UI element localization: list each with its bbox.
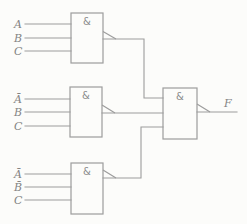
and-symbol-4: &: [176, 91, 184, 102]
and-gate-1: A B C &: [13, 13, 163, 98]
input-label-a2: Ā: [13, 93, 22, 106]
input-label-c1: C: [14, 45, 23, 58]
input-label-c3: C: [14, 194, 23, 207]
input-label-a1: A: [13, 18, 22, 31]
output-wire-1: [103, 39, 163, 98]
negation-slash-2: [102, 105, 115, 113]
and-gate-3: Ā B̄ C &: [13, 127, 163, 214]
and-symbol-1: &: [83, 16, 91, 27]
output-wire-3: [103, 127, 163, 178]
and-gate-4: & F: [163, 88, 237, 139]
negation-slash-3: [103, 170, 116, 178]
input-label-b2: B: [13, 106, 22, 119]
negation-slash-4: [197, 104, 210, 112]
input-label-c2: C: [14, 120, 23, 133]
and-symbol-2: &: [82, 90, 90, 101]
output-label-f: F: [223, 97, 232, 110]
and-symbol-3: &: [83, 166, 91, 177]
negation-slash-1: [103, 32, 116, 40]
logic-circuit-diagram: A B C & Ā B C & Ā B̄ C & &: [0, 0, 247, 224]
input-label-b3: B̄: [13, 181, 22, 194]
input-label-a3: Ā: [13, 168, 22, 181]
input-label-b1: B: [13, 32, 22, 45]
